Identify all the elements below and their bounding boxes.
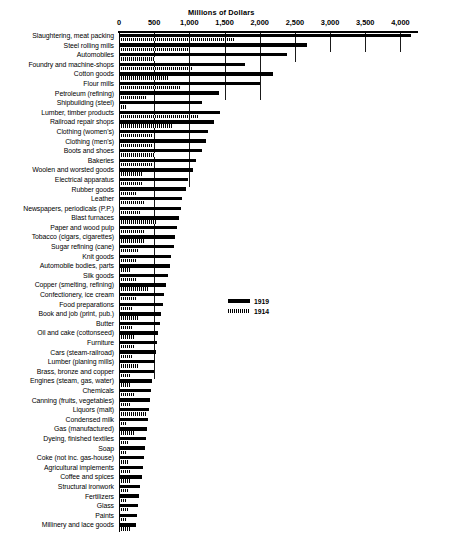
bar-row: [119, 177, 418, 187]
category-label: Silk goods: [0, 271, 117, 281]
bar-row: [119, 71, 418, 81]
category-label: Paints: [0, 511, 117, 521]
bar-1919: [119, 322, 160, 325]
bar-row: [119, 494, 418, 504]
bar-1914: [119, 326, 132, 329]
bar-1914: [119, 172, 142, 175]
category-label: Tobacco (cigars, cigarettes): [0, 232, 117, 242]
category-label: Sugar refining (cane): [0, 242, 117, 252]
category-label: Structural ironwork: [0, 482, 117, 492]
bar-1919: [119, 504, 138, 507]
bar-1914: [119, 268, 131, 271]
bar-1914: [119, 124, 172, 127]
bar-1914: [119, 451, 127, 454]
category-label: Liquors (malt): [0, 405, 117, 415]
bar-row: [119, 321, 418, 331]
bar-1919: [119, 178, 188, 181]
bar-1919: [119, 408, 149, 411]
bar-1919: [119, 475, 142, 478]
bar-row: [119, 455, 418, 465]
bar-row: [119, 43, 418, 53]
bar-1919: [119, 235, 175, 238]
bar-row: [119, 234, 418, 244]
bar-1914: [119, 499, 126, 502]
bar-row: [119, 81, 418, 91]
bar-1919: [119, 187, 186, 190]
bar-1919: [119, 207, 181, 210]
bar-1919: [119, 427, 147, 430]
category-label: Clothing (men's): [0, 137, 117, 147]
bar-row: [119, 206, 418, 216]
category-label: Lumber (planing mills): [0, 357, 117, 367]
category-label: Electrical apparatus: [0, 175, 117, 185]
bar-1919: [119, 418, 148, 421]
bar-row: [119, 388, 418, 398]
bar-1914: [119, 441, 129, 444]
category-label: Knit goods: [0, 252, 117, 262]
category-label: Oil and cake (cottonseed): [0, 328, 117, 338]
bar-row: [119, 215, 418, 225]
bar-1914: [119, 508, 128, 511]
bar-1914: [119, 460, 128, 463]
bar-1914: [119, 422, 126, 425]
bar-1914: [119, 192, 137, 195]
bar-1914: [119, 220, 156, 223]
bar-1919: [119, 341, 157, 344]
x-tick-4000: 4,000: [391, 18, 410, 27]
bar-row: [119, 139, 418, 149]
x-tick-3000: 3,000: [321, 18, 340, 27]
bar-row: [119, 407, 418, 417]
bar-1919: [119, 312, 161, 315]
bar-1919: [119, 226, 177, 229]
bar-row: [119, 522, 418, 532]
category-label: Dyeing, finished textiles: [0, 434, 117, 444]
bar-1919: [119, 130, 208, 133]
bar-row: [119, 263, 418, 273]
bar-1919: [119, 168, 193, 171]
legend-item-1914: 1914: [228, 307, 269, 315]
category-label: Leather: [0, 194, 117, 204]
bar-1919: [119, 139, 206, 142]
bar-1919: [119, 274, 168, 277]
bar-1919: [119, 370, 154, 373]
bar-1919: [119, 303, 163, 306]
bar-1919: [119, 101, 202, 104]
bar-1914: [119, 470, 130, 473]
legend-swatch-1919: [228, 299, 250, 303]
x-tick-2000: 2,000: [250, 18, 269, 27]
category-label: Steel rolling mills: [0, 41, 117, 51]
bar-row: [119, 465, 418, 475]
category-label: Brass, bronze and copper: [0, 367, 117, 377]
bar-1914: [119, 182, 143, 185]
x-axis-tick-labels: 05001,0001,5002,0002,5003,0003,5004,000: [0, 18, 457, 29]
bar-1919: [119, 197, 182, 200]
bar-1914: [119, 230, 144, 233]
category-label: Automobiles: [0, 50, 117, 60]
category-label: Glass: [0, 501, 117, 511]
bar-row: [119, 33, 418, 43]
bar-row: [119, 196, 418, 206]
x-tick-1500: 1,500: [215, 18, 234, 27]
legend-label-1914: 1914: [254, 308, 269, 315]
category-label: Clothing (women's): [0, 127, 117, 137]
legend-label-1919: 1919: [254, 298, 269, 305]
bar-1914: [119, 412, 147, 415]
bar-1914: [119, 278, 137, 281]
x-tick-0: 0: [117, 18, 121, 27]
bar-1919: [119, 379, 152, 382]
bar-1914: [119, 115, 198, 118]
category-label: Slaughtering, meat packing: [0, 31, 117, 41]
category-label: Newspapers, periodicals (P.P.): [0, 204, 117, 214]
x-tick-1000: 1,000: [180, 18, 199, 27]
bar-1919: [119, 63, 245, 66]
bar-1919: [119, 34, 411, 37]
category-label: Agricultural implements: [0, 463, 117, 473]
bar-1919: [119, 523, 136, 526]
bar-1914: [119, 211, 141, 214]
category-label: Lumber, timber products: [0, 108, 117, 118]
bar-row: [119, 129, 418, 139]
bar-1914: [119, 76, 168, 79]
bar-1914: [119, 403, 130, 406]
category-label: Gas (manufactured): [0, 424, 117, 434]
bar-1914: [119, 345, 134, 348]
